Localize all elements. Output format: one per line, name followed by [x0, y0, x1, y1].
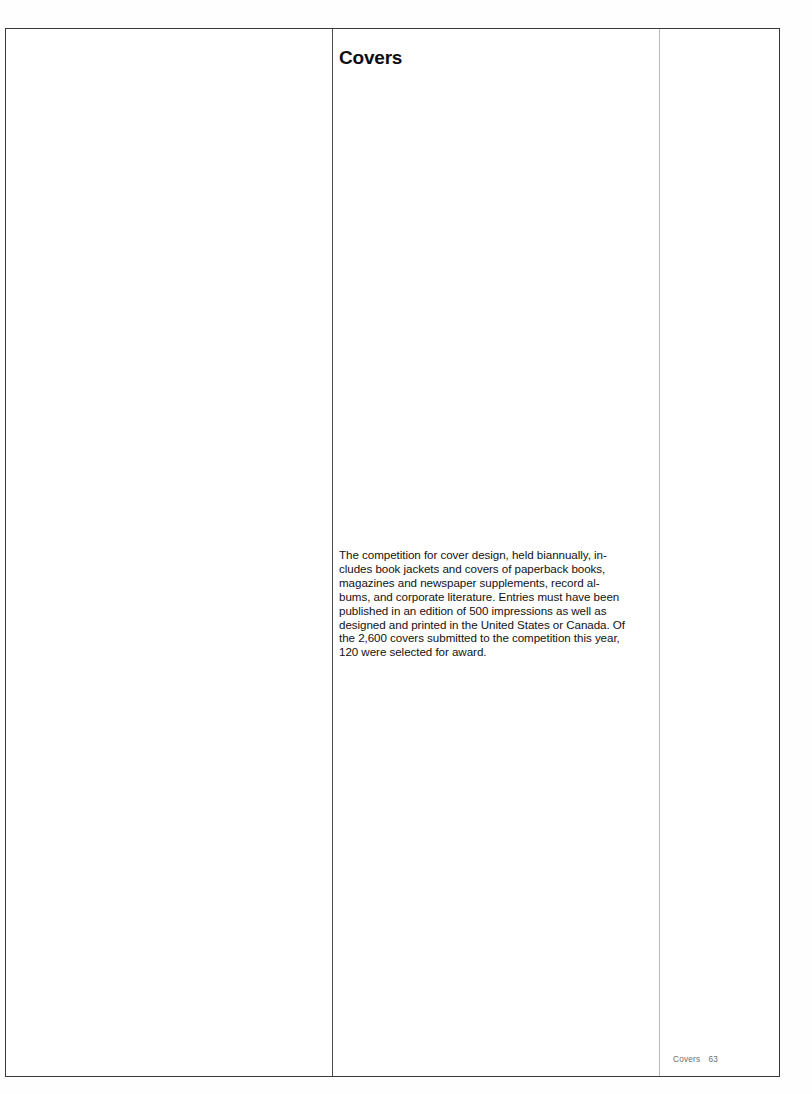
body-line: The competition for cover design, held b…	[339, 548, 659, 562]
folio-section-label: Covers	[673, 1055, 700, 1064]
page-border-frame: Covers The competition for cover design,…	[5, 28, 780, 1077]
body-line: designed and printed in the United State…	[339, 618, 659, 632]
body-paragraph: The competition for cover design, held b…	[339, 548, 659, 659]
body-line: 120 were selected for award.	[339, 645, 659, 659]
body-line: magazines and newspaper supplements, rec…	[339, 576, 659, 590]
center-text-column: Covers The competition for cover design,…	[333, 29, 659, 1076]
page-title: Covers	[339, 48, 402, 69]
body-line: published in an edition of 500 impressio…	[339, 604, 659, 618]
body-line: bums, and corporate literature. Entries …	[339, 590, 659, 604]
body-line: cludes book jackets and covers of paperb…	[339, 562, 659, 576]
folio: Covers63	[673, 1055, 718, 1064]
left-plate-column	[6, 29, 332, 1076]
folio-page-number: 63	[708, 1055, 718, 1064]
right-margin-column: Covers63	[660, 29, 779, 1076]
scanned-page-sheet: Covers The competition for cover design,…	[0, 0, 812, 1094]
body-line: the 2,600 covers submitted to the compet…	[339, 631, 659, 645]
